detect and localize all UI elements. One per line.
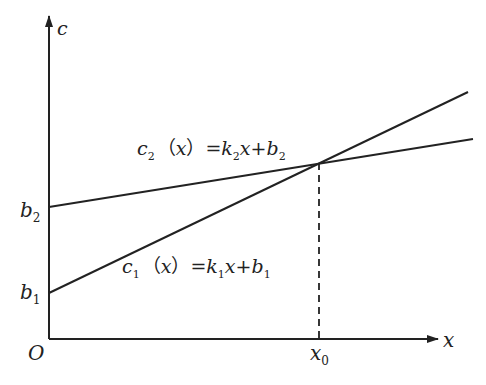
y-axis-label: c: [57, 17, 68, 39]
diagram-canvas: c x O b2 b1 x0 c2（x）=k2x+b2 c1（x）=k1x+b1: [0, 0, 486, 385]
origin-label: O: [28, 341, 44, 365]
b2-label: b2: [20, 198, 40, 225]
c2-equation-label: c2（x）=k2x+b2: [137, 137, 286, 163]
x0-label: x0: [310, 341, 329, 368]
x-axis-label: x: [443, 328, 454, 352]
c1-equation-label: c1（x）=k1x+b1: [122, 255, 271, 281]
b1-label: b1: [20, 280, 40, 307]
